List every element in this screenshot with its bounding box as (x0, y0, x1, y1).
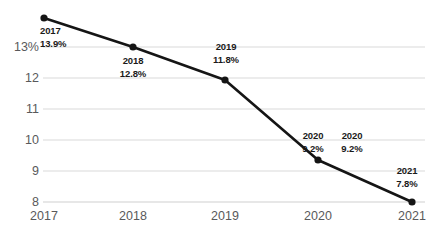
y-axis-tick-8: 8 (0, 196, 39, 209)
line-chart: 13% 12 11 10 9 8 2017 2018 2019 2020 202… (0, 0, 437, 237)
x-axis-tick-2019: 2019 (195, 210, 255, 223)
data-point-2020 (314, 156, 321, 163)
data-point-2021 (408, 198, 415, 205)
data-label-2019-value: 11.8% (196, 54, 256, 67)
data-label-2018-year: 2018 (103, 55, 163, 68)
data-label-2021-year: 2021 (382, 165, 432, 178)
y-axis-tick-13: 13% (0, 41, 39, 54)
data-label-2019-year: 2019 (196, 41, 256, 54)
data-label-2018-value: 12.8% (103, 68, 163, 81)
data-point-2018 (129, 43, 136, 50)
data-label-2020-b-value: 9.2% (327, 143, 377, 156)
y-axis-tick-11: 11 (0, 103, 39, 116)
data-label-2021-value: 7.8% (382, 178, 432, 191)
data-point-2019 (221, 76, 228, 83)
x-axis-tick-2021: 2021 (382, 210, 437, 223)
data-point-2017 (40, 14, 47, 21)
y-axis-tick-10: 10 (0, 134, 39, 147)
data-label-2017-year: 2017 (40, 25, 100, 38)
data-label-2021: 2021 7.8% (382, 165, 432, 191)
data-label-2019: 2019 11.8% (196, 41, 256, 67)
x-axis-tick-2017: 2017 (14, 210, 74, 223)
data-label-2017-value: 13.9% (40, 38, 100, 51)
x-axis-tick-2020: 2020 (288, 210, 348, 223)
data-label-2020-b: 2020 9.2% (327, 130, 377, 156)
data-label-2020-b-year: 2020 (327, 130, 377, 143)
x-axis-tick-2018: 2018 (103, 210, 163, 223)
data-label-2018: 2018 12.8% (103, 55, 163, 81)
gridlines (43, 47, 425, 202)
data-label-2017: 2017 13.9% (40, 25, 100, 51)
y-axis-tick-12: 12 (0, 72, 39, 85)
y-axis-tick-9: 9 (0, 165, 39, 178)
